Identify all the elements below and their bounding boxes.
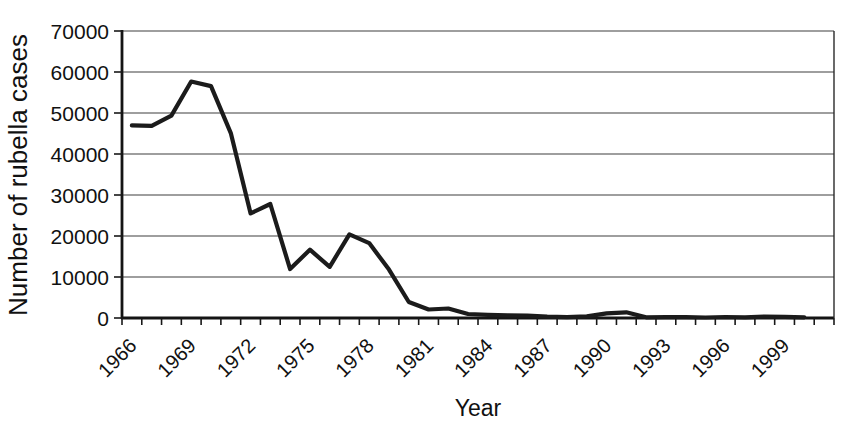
x-tick-label: 1975: [272, 334, 319, 381]
x-tick-label: 1996: [687, 334, 734, 381]
y-tick-label: 10000: [51, 266, 109, 289]
y-tick-label: 40000: [51, 143, 109, 166]
x-tick-label: 1990: [568, 334, 615, 381]
rubella-cases-line: [132, 82, 804, 318]
gridlines: [122, 31, 834, 277]
y-axis-title: Number of rubella cases: [3, 34, 33, 316]
x-tick-label: 1999: [746, 334, 793, 381]
y-tick-label: 30000: [51, 184, 109, 207]
x-tick-label: 1972: [212, 334, 259, 381]
chart-canvas: 0100002000030000400005000060000700001966…: [0, 0, 850, 428]
x-axis-title: Year: [455, 395, 502, 421]
x-tick-label: 1987: [509, 334, 556, 381]
x-tick-label: 1966: [94, 334, 141, 381]
y-tick-label: 0: [97, 307, 109, 330]
x-tick-label: 1993: [628, 334, 675, 381]
y-tick-label: 50000: [51, 102, 109, 125]
axis-lines: [121, 30, 834, 319]
x-tick-label: 1984: [450, 334, 497, 381]
y-tick-label: 60000: [51, 61, 109, 84]
y-tick-label: 20000: [51, 225, 109, 248]
x-tick-label: 1981: [390, 334, 437, 381]
x-tick-label: 1969: [153, 334, 200, 381]
y-tick-label: 70000: [51, 20, 109, 43]
axis-tick-marks: [114, 31, 834, 325]
tick-labels: 0100002000030000400005000060000700001966…: [51, 20, 794, 382]
x-tick-label: 1978: [331, 334, 378, 381]
rubella-incidence-figure: 0100002000030000400005000060000700001966…: [0, 0, 850, 428]
